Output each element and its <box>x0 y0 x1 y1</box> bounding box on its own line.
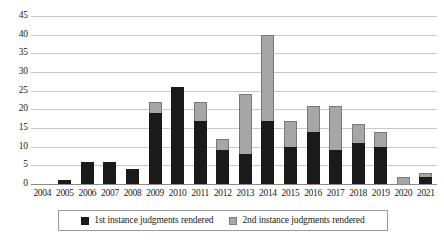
bar-slot <box>76 16 99 184</box>
bar-slot <box>234 16 257 184</box>
y-axis-tick-label: 0 <box>23 179 28 189</box>
bar-slot <box>415 16 438 184</box>
legend-item-second-instance: 2nd instance judgments rendered <box>229 216 364 226</box>
bar-segment-first-instance <box>261 121 274 184</box>
y-axis-tick-label: 5 <box>23 161 28 171</box>
first-instance-swatch <box>81 217 89 225</box>
x-axis-tick-label: 2020 <box>392 186 415 200</box>
bar-segment-first-instance <box>58 180 71 184</box>
bar-segment-first-instance <box>216 150 229 184</box>
bar-slot <box>392 16 415 184</box>
bar-stack-2005[interactable] <box>58 180 71 184</box>
bar-segment-second-instance <box>352 124 365 143</box>
bar-segment-second-instance <box>261 35 274 121</box>
bar-segment-second-instance <box>284 121 297 147</box>
y-axis-tick-label: 10 <box>19 142 28 152</box>
bar-segment-first-instance <box>126 169 139 184</box>
y-axis-tick-label: 40 <box>19 30 28 40</box>
stacked-bar-chart: 051015202530354045 200420052006200720082… <box>0 0 444 244</box>
y-axis-tick-label: 15 <box>19 123 28 133</box>
y-axis-tick-label: 35 <box>19 49 28 59</box>
bar-stack-2021[interactable] <box>419 173 432 184</box>
y-axis-tick-label: 20 <box>19 105 28 115</box>
bar-segment-second-instance <box>397 177 410 184</box>
x-axis-tick-label: 2016 <box>302 186 325 200</box>
x-axis-tick-label: 2019 <box>369 186 392 200</box>
legend-item-label: 2nd instance judgments rendered <box>242 216 364 226</box>
bar-stack-2007[interactable] <box>103 162 116 184</box>
bar-slot <box>144 16 167 184</box>
x-axis-line <box>31 184 437 185</box>
bar-stack-2020[interactable] <box>397 177 410 184</box>
bar-segment-second-instance <box>374 132 387 147</box>
x-axis-tick-label: 2021 <box>415 186 438 200</box>
x-axis-tick-label: 2009 <box>144 186 167 200</box>
bar-segment-first-instance <box>239 154 252 184</box>
bar-segment-second-instance <box>239 94 252 154</box>
bar-segment-first-instance <box>374 147 387 184</box>
bar-stack-2013[interactable] <box>239 94 252 184</box>
bar-slot <box>121 16 144 184</box>
bar-stack-2009[interactable] <box>149 102 162 184</box>
bar-slot <box>324 16 347 184</box>
bar-stack-2019[interactable] <box>374 132 387 184</box>
bar-stack-2012[interactable] <box>216 139 229 184</box>
x-axis-tick-label: 2004 <box>31 186 54 200</box>
x-axis-tick-label: 2010 <box>166 186 189 200</box>
x-axis-tick-label: 2018 <box>347 186 370 200</box>
bar-slot <box>54 16 77 184</box>
bar-slot <box>166 16 189 184</box>
y-axis-tick-label: 45 <box>19 11 28 21</box>
bar-segment-first-instance <box>352 143 365 184</box>
bar-slot <box>99 16 122 184</box>
bar-stack-2018[interactable] <box>352 124 365 184</box>
bar-segment-second-instance <box>194 102 207 121</box>
x-axis-tick-label: 2014 <box>257 186 280 200</box>
bar-segment-first-instance <box>194 121 207 184</box>
x-axis-tick-label: 2007 <box>99 186 122 200</box>
second-instance-swatch <box>229 217 237 225</box>
bar-stack-2014[interactable] <box>261 35 274 184</box>
legend-item-label: 1st instance judgments rendered <box>94 216 213 226</box>
x-axis-tick-label: 2017 <box>324 186 347 200</box>
bar-slot <box>31 16 54 184</box>
bar-stack-2016[interactable] <box>307 106 320 184</box>
y-axis-tick-label: 30 <box>19 67 28 77</box>
plot-area <box>31 16 437 184</box>
bar-segment-second-instance <box>307 106 320 132</box>
bar-segment-first-instance <box>284 147 297 184</box>
bar-segment-first-instance <box>81 162 94 184</box>
x-axis-tick-label: 2006 <box>76 186 99 200</box>
x-axis-tick-label: 2012 <box>212 186 235 200</box>
bar-segment-second-instance <box>216 139 229 150</box>
bars-layer <box>31 16 437 184</box>
y-axis-tick-label: 25 <box>19 86 28 96</box>
x-axis-tick-label: 2011 <box>189 186 212 200</box>
bar-slot <box>189 16 212 184</box>
bar-stack-2008[interactable] <box>126 169 139 184</box>
legend-item-first-instance: 1st instance judgments rendered <box>81 216 213 226</box>
bar-segment-second-instance <box>329 106 342 151</box>
x-axis-tick-label: 2005 <box>54 186 77 200</box>
bar-segment-second-instance <box>149 102 162 113</box>
bar-slot <box>347 16 370 184</box>
bar-stack-2011[interactable] <box>194 102 207 184</box>
y-axis: 051015202530354045 <box>6 16 28 184</box>
bar-segment-first-instance <box>171 87 184 184</box>
bar-stack-2015[interactable] <box>284 121 297 184</box>
bar-slot <box>212 16 235 184</box>
bar-segment-first-instance <box>149 113 162 184</box>
bar-stack-2017[interactable] <box>329 106 342 184</box>
x-axis-tick-label: 2008 <box>121 186 144 200</box>
bar-slot <box>279 16 302 184</box>
bar-stack-2010[interactable] <box>171 87 184 184</box>
x-axis-tick-label: 2015 <box>279 186 302 200</box>
bar-segment-first-instance <box>419 177 432 184</box>
x-axis: 2004200520062007200820092010201120122013… <box>31 186 437 200</box>
chart-legend: 1st instance judgments rendered 2nd inst… <box>58 210 388 231</box>
x-axis-tick-label: 2013 <box>234 186 257 200</box>
bar-slot <box>257 16 280 184</box>
bar-slot <box>369 16 392 184</box>
bar-segment-first-instance <box>103 162 116 184</box>
bar-stack-2006[interactable] <box>81 162 94 184</box>
